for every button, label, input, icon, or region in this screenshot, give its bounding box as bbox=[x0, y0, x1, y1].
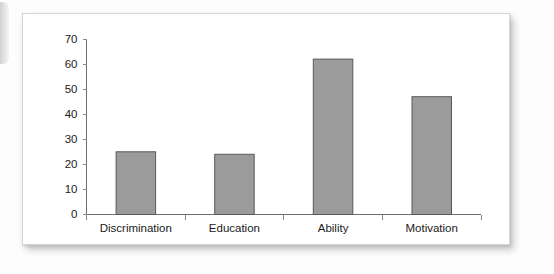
bar-chart: 010203040506070 DiscriminationEducationA… bbox=[23, 14, 511, 246]
x-label-discrimination: Discrimination bbox=[100, 222, 172, 234]
x-axis-category-labels: DiscriminationEducationAbilityMotivation bbox=[100, 222, 458, 234]
y-tick-label: 20 bbox=[65, 158, 78, 170]
left-edge-artifact bbox=[0, 2, 9, 64]
bar-motivation bbox=[412, 97, 452, 215]
y-axis-ticks: 010203040506070 bbox=[65, 33, 87, 221]
x-axis-ticks bbox=[87, 215, 482, 220]
y-tick-label: 70 bbox=[65, 33, 78, 45]
y-tick-label: 10 bbox=[65, 183, 78, 195]
x-label-ability: Ability bbox=[318, 222, 349, 234]
x-label-education: Education bbox=[209, 222, 260, 234]
bar-ability bbox=[313, 59, 353, 214]
y-tick-label: 0 bbox=[71, 208, 77, 220]
y-tick-label: 40 bbox=[65, 108, 78, 120]
bar-series bbox=[116, 59, 451, 214]
y-tick-label: 60 bbox=[65, 58, 78, 70]
chart-card: 010203040506070 DiscriminationEducationA… bbox=[22, 13, 510, 245]
x-label-motivation: Motivation bbox=[405, 222, 457, 234]
y-tick-label: 50 bbox=[65, 83, 78, 95]
bar-education bbox=[215, 154, 255, 214]
y-tick-label: 30 bbox=[65, 133, 78, 145]
bar-discrimination bbox=[116, 152, 156, 215]
